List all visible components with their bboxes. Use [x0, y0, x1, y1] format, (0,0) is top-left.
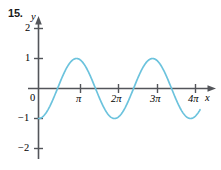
x-tick-label-4pi: 4π	[188, 93, 199, 104]
y-tick-label-1: 1	[25, 52, 30, 63]
graph-svg	[0, 0, 221, 170]
y-axis-label: y	[31, 11, 36, 22]
y-tick-label-2: 2	[25, 22, 30, 33]
origin-label: 0	[30, 92, 35, 103]
figure-container: 15. y x 2 1 −1 −2 0 π 2π 3π 4π	[0, 0, 221, 170]
x-tick-label-3pi: 3π	[150, 93, 161, 104]
x-tick-label-pi: π	[76, 93, 81, 104]
x-axis-label: x	[205, 92, 210, 103]
y-tick-label-neg1: −1	[18, 112, 29, 123]
y-axis-arrow-icon	[35, 16, 42, 25]
x-axis-arrow-icon	[208, 85, 217, 92]
x-tick-label-2pi: 2π	[111, 93, 122, 104]
y-tick-label-neg2: −2	[18, 142, 29, 153]
